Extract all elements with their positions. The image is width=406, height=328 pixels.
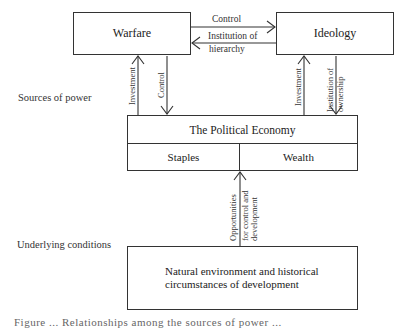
figure-caption: Figure ... Relationships among the sourc… [14,316,282,328]
control-arrow-label: Control [212,14,241,24]
opportunities-label-3: development [249,196,259,241]
ideology-ownership-label-2: ownership [335,77,345,112]
ideology-investment-label: Investment [293,68,303,106]
warfare-investment-label: Investment [127,67,137,105]
hierarchy-arrow-label-2: hierarchy [209,44,245,54]
ideology-ownership-label-1: Institution of [325,68,335,112]
warfare-control-label: Control [156,71,166,98]
hierarchy-arrow-label-1: Institution of [208,31,258,41]
opportunities-label-1: Opportunities [228,194,238,241]
